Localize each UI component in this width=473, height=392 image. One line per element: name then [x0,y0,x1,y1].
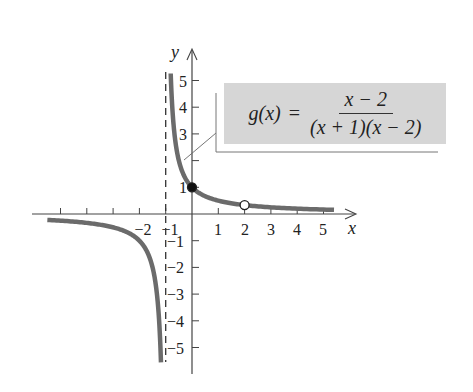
y-tick-label: −1 [167,233,184,250]
x-tick-label: 1 [214,221,222,238]
x-tick-label: 3 [267,221,275,238]
formula-numerator: x − 2 [339,88,393,114]
x-tick-label: 5 [319,221,327,238]
y-tick-label: −2 [167,259,184,276]
x-tick-label: 2 [241,221,249,238]
y-tick-label: 4 [179,99,187,116]
formula-denominator: (x + 1)(x − 2) [310,114,421,139]
function-curve [47,220,161,362]
callout-leader-line [184,133,216,160]
formula-box: g(x) = x − 2 (x + 1)(x − 2) [224,83,446,144]
formula: g(x) = x − 2 (x + 1)(x − 2) [224,83,446,144]
y-tick-label: 5 [179,73,187,90]
y-tick-label: −5 [167,340,184,357]
closed-point [188,183,197,192]
marked-points [188,183,250,210]
graph-plot: xy−2−1123455431−1−2−3−4−5 [0,0,473,392]
y-tick-label: 3 [179,126,187,143]
formula-equals: = [289,102,300,125]
formula-fraction: x − 2 (x + 1)(x − 2) [310,88,421,139]
y-tick-label: −4 [167,313,184,330]
open-point-hole [240,201,249,210]
x-tick-label: 4 [293,221,301,238]
x-axis-label: x [347,218,356,238]
x-tick-label: −2 [134,221,151,238]
formula-lhs: g(x) [249,102,281,125]
y-tick-label: −3 [167,286,184,303]
y-axis-label: y [169,42,179,62]
